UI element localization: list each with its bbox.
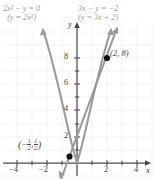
y-tick-label-8: 8 — [64, 52, 68, 61]
x-tick-label-4: 4 — [134, 165, 138, 174]
math-figure: 2x² − y = 0 (y = 2x²) 3x − y = −2 (y = 3… — [0, 0, 155, 179]
point-neg-half-half — [66, 153, 72, 159]
x-tick-label-neg2: −2 — [39, 165, 48, 174]
y-tick-label-4: 4 — [64, 104, 68, 113]
point-label-2-8: (2, 8) — [110, 49, 129, 59]
point-label-neg-half-half: (−12,12) — [18, 138, 41, 152]
x-tick-label-neg4: −4 — [9, 165, 18, 174]
parabola-equation-solved-text: (y = 2x²) — [3, 13, 40, 22]
x-tick-label-2: 2 — [104, 165, 108, 174]
graph-canvas — [0, 0, 155, 179]
line-equation-label: 3x − y = −2 (y = 3x + 2) — [78, 4, 118, 23]
fraction-denominator: 2 — [27, 145, 31, 152]
y-tick-label-6: 6 — [64, 78, 68, 87]
point-label-close-paren: ) — [38, 139, 42, 150]
x-axis-name: x — [146, 165, 150, 175]
y-axis-name: y — [68, 19, 72, 29]
parabola-equation-label: 2x² − y = 0 (y = 2x²) — [3, 4, 40, 23]
line-equation-text: 3x − y = −2 — [78, 4, 118, 13]
line-equation-solved-text: (y = 3x + 2) — [78, 13, 118, 22]
y-tick-label-2: 2 — [64, 131, 68, 140]
fraction-one-half-x: 12 — [27, 138, 31, 152]
fraction-denominator: 2 — [34, 145, 38, 152]
fraction-one-half-y: 12 — [34, 138, 38, 152]
parabola-equation-text: 2x² − y = 0 — [3, 4, 40, 13]
